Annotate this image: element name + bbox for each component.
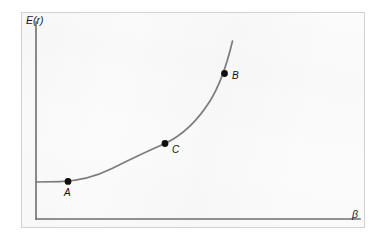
exponential-curve <box>36 41 233 182</box>
data-point-a-label: A <box>63 187 71 198</box>
data-point-c-dot <box>162 140 169 147</box>
y-axis-label: E(r) <box>26 14 44 26</box>
data-point-b-dot <box>221 70 228 77</box>
data-point-b-label: B <box>232 70 239 81</box>
data-point-a-dot <box>65 178 72 185</box>
chart-canvas: E(r) β A C B <box>0 0 384 241</box>
x-axis-label: β <box>351 208 358 220</box>
figure-root: E(r) β A C B <box>0 0 384 241</box>
data-point-c-label: C <box>172 144 180 155</box>
